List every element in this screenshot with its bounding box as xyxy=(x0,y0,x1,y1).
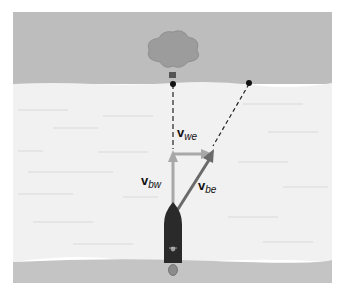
river-diagram: vwe vbw vbe xyxy=(13,12,332,283)
label-v-bw: vbw xyxy=(141,174,161,190)
target-dot xyxy=(170,81,176,87)
landing-dot xyxy=(246,80,252,86)
label-v-be: vbe xyxy=(198,179,216,195)
diagram-canvas xyxy=(13,12,332,283)
label-v-we: vwe xyxy=(177,126,197,142)
